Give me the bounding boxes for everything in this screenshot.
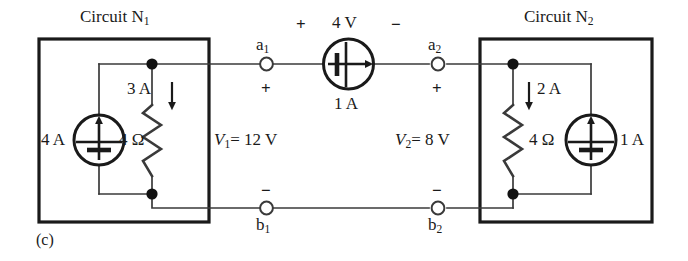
n1-node-dot-bottom: [146, 188, 157, 199]
n1-branch-current-label: 3 A: [127, 80, 151, 97]
terminal-a1-label-sub: 1: [264, 43, 270, 56]
circuit-n2-title-sub: 2: [588, 15, 594, 28]
center-source-polarity-minus: −: [391, 16, 401, 33]
circuit-n1-title: Circuit N1: [80, 8, 150, 28]
terminal-b2-label: b2: [428, 216, 442, 236]
n1-port-polarity-minus: −: [261, 182, 271, 199]
center-source-current-label: 1 A: [334, 95, 358, 112]
n2-branch-current-label: 2 A: [537, 80, 561, 97]
circuit-n2-title: Circuit N2: [524, 8, 594, 28]
terminal-a2[interactable]: [432, 58, 445, 71]
terminal-b2[interactable]: [432, 202, 445, 215]
terminal-a2-label-sub: 2: [436, 43, 442, 56]
n1-node-to-b1: [152, 194, 262, 208]
terminal-b1[interactable]: [260, 202, 273, 215]
n2-port-polarity-minus: −: [432, 182, 442, 199]
circuit-n1-title-sub: 1: [144, 15, 150, 28]
terminal-b1-label: b1: [256, 216, 270, 236]
n2-resistor-zigzag: [504, 105, 522, 176]
circuit-schematic-svg: [0, 0, 688, 261]
n2-port-polarity-plus: +: [432, 80, 442, 97]
n1-resistor-label: 4 Ω: [119, 131, 144, 148]
terminal-a1-label: a1: [256, 36, 269, 56]
n2-node-dot-top: [507, 58, 518, 69]
figure-caption: (c): [36, 232, 54, 248]
n1-port-polarity-plus: +: [261, 80, 271, 97]
n1-port-voltage-label: V1= 12 V: [214, 131, 277, 151]
figure-canvas: Circuit N1 Circuit N2 4 A 4 Ω 3 A a1 + −…: [0, 0, 688, 261]
n2-port-voltage-label: V2= 8 V: [395, 131, 450, 151]
n2-node-dot-bottom: [507, 188, 518, 199]
n2-current-source-symbol: [566, 115, 616, 165]
n1-port-voltage-value: = 12 V: [230, 130, 277, 149]
n2-source-label: 1 A: [620, 131, 644, 148]
terminal-b1-label-sub: 1: [265, 223, 271, 236]
n1-current-source-symbol: [74, 115, 124, 165]
terminal-a2-label: a2: [428, 36, 441, 56]
n2-port-voltage-value: = 8 V: [411, 130, 450, 149]
center-source-symbol: [324, 39, 374, 89]
terminal-b2-label-sub: 2: [437, 223, 443, 236]
n1-node-dot-top: [146, 58, 157, 69]
center-source-polarity-plus: +: [296, 16, 306, 33]
center-source-voltage-label: 4 V: [332, 14, 357, 31]
n1-source-label: 4 A: [41, 131, 65, 148]
n1-resistor-zigzag: [143, 105, 161, 176]
n2-resistor-label: 4 Ω: [529, 131, 554, 148]
terminal-a1[interactable]: [260, 58, 273, 71]
